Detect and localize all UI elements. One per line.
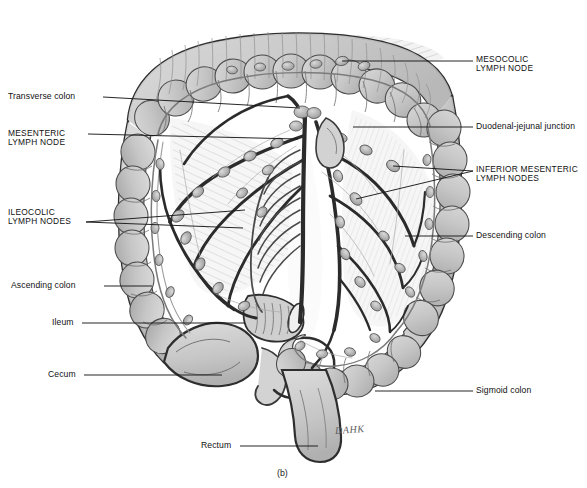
duodenal-jejunal-junction-marker: [316, 118, 344, 168]
label-duodenal-jejunal-junction: Duodenal-jejunal junction: [476, 122, 575, 132]
artist-signature: DAHK: [335, 423, 365, 436]
label-sigmoid-colon: Sigmoid colon: [476, 386, 531, 396]
label-mesocolic-lymph-node: MESOCOLIC LYMPH NODE: [476, 55, 533, 74]
label-descending-colon: Descending colon: [476, 231, 546, 241]
label-ileocolic-lymph-nodes: ILEOCOLIC LYMPH NODES: [8, 208, 71, 227]
label-ileum: Ileum: [52, 318, 74, 328]
figure-caption: (b): [277, 468, 288, 478]
label-cecum: Cecum: [48, 370, 76, 380]
label-ascending-colon: Ascending colon: [11, 281, 76, 291]
label-inferior-mesenteric-lymph-nodes: INFERIOR MESENTERIC LYMPH NODES: [476, 165, 578, 184]
anatomical-figure: Transverse colon MESENTERIC LYMPH NODE I…: [0, 0, 587, 488]
label-transverse-colon: Transverse colon: [8, 92, 75, 102]
label-rectum: Rectum: [201, 441, 231, 451]
label-mesenteric-lymph-node: MESENTERIC LYMPH NODE: [8, 129, 65, 148]
